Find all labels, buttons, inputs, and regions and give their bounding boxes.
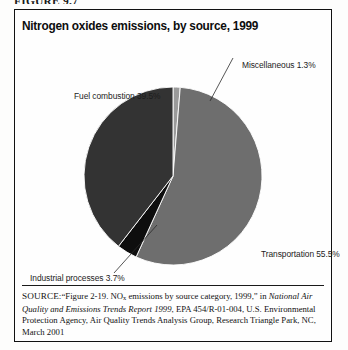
source-text-2: emissions by source category, 1999,” in xyxy=(126,291,269,301)
leader-line-miscellaneous xyxy=(210,58,233,101)
figure-container: FIGURE 9.7 Nitrogen oxides emissions, by… xyxy=(0,0,348,350)
pie-chart-svg xyxy=(14,9,332,289)
source-citation: SOURCE:“Figure 2-19. NOx emissions by so… xyxy=(22,291,326,338)
source-divider xyxy=(22,285,324,286)
pie-chart: Miscellaneous 1.3% Fuel combustion 39.5%… xyxy=(14,9,332,289)
figure-number-label: FIGURE 9.7 xyxy=(14,0,78,4)
slice-label-miscellaneous: Miscellaneous 1.3% xyxy=(242,60,316,70)
source-prefix: SOURCE: xyxy=(22,291,62,301)
source-text-1: “Figure 2-19. NO xyxy=(62,291,124,301)
slice-label-industrial-processes: Industrial processes 3.7% xyxy=(30,273,125,283)
pie-slices xyxy=(84,87,262,265)
slice-label-transportation: Transportation 55.5% xyxy=(261,249,340,259)
slice-label-fuel-combustion: Fuel combustion 39.5% xyxy=(74,91,160,101)
